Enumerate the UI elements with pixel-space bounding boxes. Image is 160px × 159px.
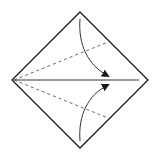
kite-fold-diagram [0,0,160,159]
